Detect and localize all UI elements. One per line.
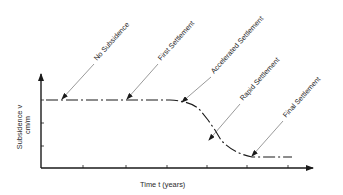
leader-lines [62, 64, 283, 156]
label-no-subsidence: No Subsidence [92, 20, 131, 62]
y-axis [41, 74, 44, 168]
subsidence-diagram: No Subsidence First Settlement Accelerat… [0, 0, 343, 195]
subsidence-curve [46, 100, 292, 157]
label-accelerated-settlement: Accelerated Settlement [209, 14, 265, 75]
y-axis-unit-label: cm/m [23, 116, 32, 134]
label-rapid-settlement: Rapid Settlement [238, 55, 282, 102]
leader-no-subsidence [62, 64, 94, 99]
leader-first-settlement [127, 64, 158, 99]
label-final-settlement: Final Settlement [281, 75, 322, 120]
label-first-settlement: First Settlement [156, 19, 196, 62]
x-axis-label: Time t (years) [140, 180, 185, 189]
leader-accelerated-settlement [182, 77, 211, 102]
x-axis [41, 165, 313, 168]
leader-final-settlement [252, 121, 283, 156]
leader-rapid-settlement [209, 104, 240, 140]
